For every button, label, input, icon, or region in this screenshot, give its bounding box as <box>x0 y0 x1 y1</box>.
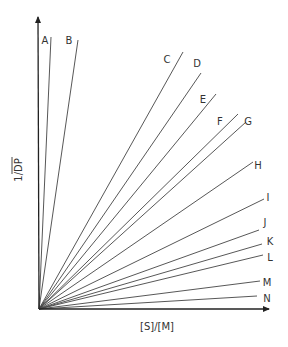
y-axis <box>38 17 39 309</box>
line-label-n: N <box>263 293 270 304</box>
line-i <box>39 199 264 309</box>
line-label-m: M <box>263 277 272 288</box>
line-label-h: H <box>254 160 262 171</box>
y-axis-label: 1/DP <box>12 157 24 182</box>
line-label-f: F <box>217 116 223 127</box>
diagram-figure: ABCDEFGHIJKLMN 1/DP [S]/[M] <box>0 0 288 347</box>
line-l <box>39 255 263 309</box>
line-label-l: L <box>267 252 273 263</box>
line-d <box>39 73 201 309</box>
line-label-b: B <box>66 35 73 46</box>
line-label-i: I <box>267 192 270 203</box>
line-label-k: K <box>267 236 274 247</box>
x-axis-label: [S]/[M] <box>140 321 174 332</box>
line-label-c: C <box>164 54 171 65</box>
line-label-e: E <box>200 94 206 105</box>
line-m <box>39 281 260 309</box>
line-label-j: J <box>263 217 267 228</box>
line-g <box>39 122 246 309</box>
line-h <box>39 162 253 309</box>
line-c <box>39 52 183 309</box>
y-axis-label-text: 1/DP <box>13 158 24 181</box>
line-label-g: G <box>244 116 252 127</box>
line-label-a: A <box>42 35 49 46</box>
line-n <box>39 296 257 309</box>
line-label-d: D <box>193 58 201 69</box>
line-family <box>39 37 264 309</box>
